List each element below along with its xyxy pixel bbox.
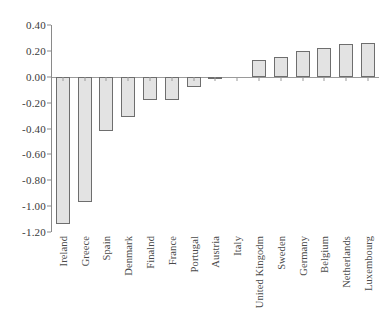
bar — [78, 77, 92, 202]
x-axis-category-label: Italy — [232, 236, 243, 256]
x-axis-category-label: Austria — [210, 236, 221, 268]
x-axis-tick-mark — [237, 77, 238, 81]
x-axis-category-label: Denmark — [123, 236, 134, 276]
x-axis-tick-mark — [368, 77, 369, 81]
x-axis-tick-mark — [171, 77, 172, 81]
bar — [252, 60, 266, 77]
x-axis-category-label: Netherlands — [341, 236, 352, 288]
bar-slot — [139, 25, 161, 232]
bar — [361, 43, 375, 77]
y-axis-tick-label: -1.00 — [22, 200, 46, 212]
x-axis-tick-mark — [302, 77, 303, 81]
y-axis-tick-label: -0.40 — [22, 123, 46, 135]
x-axis-category-label: Finalnd — [145, 236, 156, 269]
x-axis-tick-mark — [193, 77, 194, 81]
x-axis-category-label: Greece — [79, 236, 90, 266]
x-axis-category-labels: IrelandGreeceSpainDenmarkFinalndFrancePo… — [52, 236, 379, 323]
x-axis-tick-mark — [62, 77, 63, 81]
x-axis-category-label: Luxembourg — [363, 236, 374, 291]
y-axis-tick-label: 0.20 — [26, 45, 46, 57]
y-axis-tick-labels: 0.400.200.00-0.20-0.40-0.60-0.80-1.00-1.… — [0, 0, 46, 323]
x-axis-category-label: Portugal — [188, 236, 199, 272]
x-axis-tick-mark — [346, 77, 347, 81]
bar-slot — [161, 25, 183, 232]
x-axis-tick-mark — [280, 77, 281, 81]
bar — [56, 77, 70, 224]
x-axis-tick-mark — [150, 77, 151, 81]
y-axis-tick-mark — [47, 180, 51, 181]
y-axis-tick-mark — [47, 154, 51, 155]
x-axis-tick-mark — [259, 77, 260, 81]
x-axis-tick-mark — [215, 77, 216, 81]
x-axis-category-label: Ireland — [57, 236, 68, 266]
bar-slot — [117, 25, 139, 232]
y-axis-tick-mark — [47, 76, 51, 77]
bar — [339, 44, 353, 76]
y-axis-tick-mark — [47, 232, 51, 233]
x-axis-category-label: Spain — [101, 236, 112, 260]
bar — [296, 51, 310, 77]
bar-slot — [314, 25, 336, 232]
y-axis-tick-mark — [47, 50, 51, 51]
x-axis-category-label: France — [166, 236, 177, 265]
y-axis-tick-label: -0.20 — [22, 97, 46, 109]
bar-slot — [357, 25, 379, 232]
bar — [121, 77, 135, 117]
y-axis-tick-label: 0.00 — [26, 71, 46, 83]
y-axis-tick-label: -0.60 — [22, 148, 46, 160]
y-axis-tick-mark — [47, 128, 51, 129]
bar-slot — [226, 25, 248, 232]
x-axis-category-label: Sweden — [275, 236, 286, 270]
x-axis-category-label: Germany — [297, 236, 308, 276]
x-axis-category-label: Belgium — [319, 236, 330, 273]
x-axis-tick-mark — [106, 77, 107, 81]
bar-slot — [248, 25, 270, 232]
x-axis-tick-mark — [324, 77, 325, 81]
y-axis-tick-mark — [47, 206, 51, 207]
bar-slot — [183, 25, 205, 232]
bar-slot — [52, 25, 74, 232]
y-axis-tick-label: -0.80 — [22, 174, 46, 186]
bar-slot — [96, 25, 118, 232]
y-axis-tick-mark — [47, 25, 51, 26]
bar-chart: 0.400.200.00-0.20-0.40-0.60-0.80-1.00-1.… — [0, 0, 387, 323]
bar — [99, 77, 113, 131]
bar-slot — [335, 25, 357, 232]
bar-slot — [292, 25, 314, 232]
y-axis-tick-label: 0.40 — [26, 19, 46, 31]
plot-area — [52, 25, 379, 232]
x-axis-tick-mark — [128, 77, 129, 81]
y-axis-tick-mark — [47, 102, 51, 103]
x-axis-category-label: United Kingodm — [254, 236, 265, 308]
bar-slot — [74, 25, 96, 232]
bar — [317, 48, 331, 76]
x-axis-tick-mark — [84, 77, 85, 81]
bar — [274, 57, 288, 76]
bar-slot — [205, 25, 227, 232]
y-axis-tick-label: -1.20 — [22, 226, 46, 238]
bar-slot — [270, 25, 292, 232]
